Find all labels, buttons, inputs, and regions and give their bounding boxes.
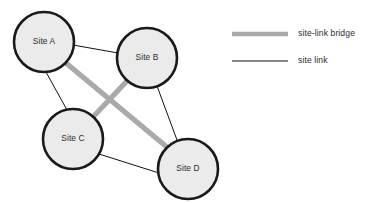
node-site-d[interactable]: Site D xyxy=(158,139,218,199)
node-label-site-c: Site C xyxy=(61,133,84,143)
diagram-root: Site A Site B Site C Site D site-link br… xyxy=(0,0,368,203)
node-site-c[interactable]: Site C xyxy=(43,109,103,169)
edge-site-link-c-d xyxy=(99,154,159,173)
node-site-b[interactable]: Site B xyxy=(117,28,177,88)
legend-item-site-link: site link xyxy=(232,55,328,65)
legend-label-site-link: site link xyxy=(298,55,328,65)
legend-item-site-link-bridge: site-link bridge xyxy=(232,28,355,38)
legend-label-site-link-bridge: site-link bridge xyxy=(298,28,355,38)
node-site-a[interactable]: Site A xyxy=(14,12,74,72)
edge-site-link-a-b xyxy=(73,45,118,53)
node-label-site-a: Site A xyxy=(33,36,56,46)
node-label-site-b: Site B xyxy=(136,52,159,62)
legend: site-link bridge site link xyxy=(232,28,355,65)
node-label-site-d: Site D xyxy=(176,163,199,173)
site-topology-diagram: Site A Site B Site C Site D site-link br… xyxy=(0,0,368,203)
edge-site-link-b-d xyxy=(157,86,177,140)
edge-site-link-a-c xyxy=(46,72,67,110)
